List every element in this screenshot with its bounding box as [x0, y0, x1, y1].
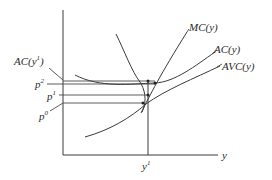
- ac-label: AC(y): [213, 43, 241, 56]
- ac-y1-label: AC(y1): [13, 54, 44, 68]
- ac-min-point: [154, 82, 157, 85]
- mc-label: MC(y): [188, 21, 218, 34]
- x-axis-label: y: [221, 149, 227, 161]
- p2-label: p2: [34, 77, 45, 90]
- avc-label: AVC(y): [221, 60, 255, 73]
- avc-curve: [85, 66, 220, 137]
- y1-tick-label: y1: [141, 159, 150, 172]
- ac-mc-point-y1: [147, 80, 150, 83]
- ac-y1-leader: [49, 68, 63, 80]
- cost-curve-diagram: MC(y) AC(y) AVC(y) AC(y1) p2 p1 p0 y y1: [0, 0, 272, 180]
- p0-leader: [50, 103, 63, 111]
- ac-curve: [75, 52, 215, 84]
- avc-min-point: [142, 102, 145, 105]
- avc-y1-point: [147, 94, 150, 97]
- mc-curve-left: [116, 34, 145, 112]
- p1-label: p1: [46, 89, 56, 102]
- p0-label: p0: [38, 109, 49, 122]
